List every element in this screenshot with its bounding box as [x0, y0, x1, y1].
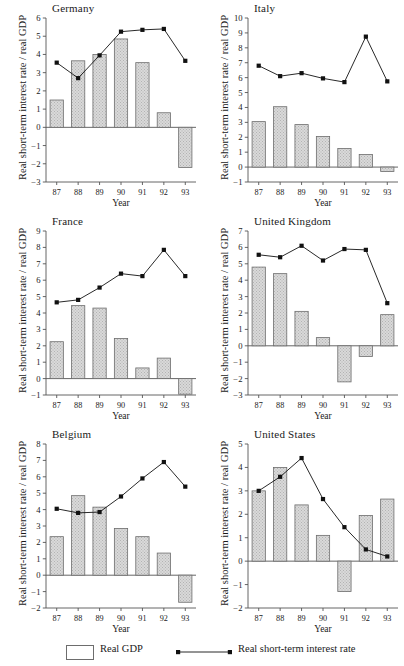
svg-text:4: 4	[238, 462, 243, 472]
svg-text:91: 91	[340, 614, 348, 623]
svg-text:8: 8	[36, 242, 40, 252]
svg-text:6: 6	[36, 13, 41, 23]
svg-text:87: 87	[255, 188, 263, 197]
svg-text:8: 8	[36, 439, 40, 449]
svg-text:89: 89	[95, 614, 103, 623]
svg-text:92: 92	[362, 401, 370, 410]
chart-panel: Germany Real short-term interest rate / …	[0, 0, 202, 210]
svg-text:92: 92	[160, 188, 168, 197]
svg-text:87: 87	[53, 614, 61, 623]
svg-text:92: 92	[160, 401, 168, 410]
svg-text:−1: −1	[31, 587, 40, 597]
legend-swatch-real-gdp	[66, 645, 94, 660]
x-axis-label: Year	[91, 411, 151, 421]
svg-text:5: 5	[238, 259, 242, 269]
svg-text:0: 0	[36, 374, 40, 384]
plot-area: 76543210−1−2−387888990919293	[202, 213, 404, 423]
x-axis-label: Year	[293, 411, 353, 421]
svg-text:7: 7	[238, 226, 243, 236]
svg-text:93: 93	[181, 614, 189, 623]
svg-text:3: 3	[238, 486, 242, 496]
legend-label-interest-rate: Real short-term interest rate	[238, 643, 356, 654]
svg-text:4: 4	[36, 49, 41, 59]
svg-text:5: 5	[238, 88, 242, 98]
chart-panel: United States Real short-term interest r…	[202, 426, 404, 636]
svg-text:2: 2	[36, 341, 40, 351]
svg-text:88: 88	[276, 188, 284, 197]
svg-text:8: 8	[238, 43, 242, 53]
svg-text:0: 0	[238, 162, 242, 172]
svg-text:−2: −2	[31, 159, 40, 169]
svg-text:5: 5	[36, 292, 40, 302]
figure-legend: Real GDP Real short-term interest rate	[0, 636, 404, 666]
svg-text:2: 2	[238, 132, 242, 142]
svg-text:−1: −1	[31, 390, 40, 400]
svg-text:87: 87	[255, 401, 263, 410]
svg-text:93: 93	[383, 188, 391, 197]
svg-text:89: 89	[297, 188, 305, 197]
x-axis-label: Year	[293, 198, 353, 208]
svg-text:9: 9	[36, 226, 40, 236]
svg-text:2: 2	[36, 86, 40, 96]
chart-panel: Italy Real short-term interest rate / re…	[202, 0, 404, 210]
svg-text:0: 0	[36, 570, 40, 580]
svg-text:90: 90	[319, 401, 327, 410]
svg-text:4: 4	[36, 505, 41, 515]
svg-text:90: 90	[319, 614, 327, 623]
svg-text:89: 89	[95, 188, 103, 197]
svg-text:1: 1	[238, 533, 242, 543]
x-axis-label: Year	[293, 624, 353, 634]
svg-text:87: 87	[255, 614, 263, 623]
svg-text:0: 0	[238, 556, 242, 566]
svg-text:4: 4	[36, 308, 41, 318]
svg-text:3: 3	[36, 68, 40, 78]
svg-text:87: 87	[53, 401, 61, 410]
svg-text:0: 0	[36, 122, 40, 132]
svg-text:92: 92	[362, 188, 370, 197]
svg-text:2: 2	[238, 308, 242, 318]
svg-text:6: 6	[238, 73, 243, 83]
chart-panel: Belgium Real short-term interest rate / …	[0, 426, 202, 636]
svg-text:4: 4	[238, 102, 243, 112]
svg-text:3: 3	[238, 117, 242, 127]
plot-area: 6543210−1−2−387888990919293	[0, 0, 202, 210]
svg-text:87: 87	[53, 188, 61, 197]
svg-text:7: 7	[36, 455, 41, 465]
svg-text:−2: −2	[233, 374, 242, 384]
svg-text:90: 90	[117, 614, 125, 623]
svg-text:93: 93	[181, 188, 189, 197]
svg-text:6: 6	[36, 472, 41, 482]
svg-text:91: 91	[138, 188, 146, 197]
svg-text:91: 91	[138, 614, 146, 623]
svg-text:91: 91	[138, 401, 146, 410]
svg-text:88: 88	[74, 614, 82, 623]
svg-text:−3: −3	[233, 390, 242, 400]
svg-text:93: 93	[383, 401, 391, 410]
svg-text:5: 5	[36, 488, 40, 498]
svg-text:90: 90	[319, 188, 327, 197]
svg-text:3: 3	[238, 292, 242, 302]
svg-text:7: 7	[36, 259, 41, 269]
svg-text:4: 4	[238, 275, 243, 285]
plot-area: 9876543210−187888990919293	[0, 213, 202, 423]
svg-text:5: 5	[238, 439, 242, 449]
svg-text:10: 10	[234, 13, 243, 23]
legend-label-real-gdp: Real GDP	[100, 643, 143, 654]
svg-text:88: 88	[74, 401, 82, 410]
plot-area: 109876543210−187888990919293	[202, 0, 404, 210]
svg-text:90: 90	[117, 401, 125, 410]
svg-text:5: 5	[36, 31, 40, 41]
svg-text:92: 92	[160, 614, 168, 623]
svg-text:89: 89	[297, 614, 305, 623]
plot-area: 543210−1−287888990919293	[202, 426, 404, 636]
svg-text:1: 1	[36, 554, 40, 564]
svg-text:93: 93	[383, 614, 391, 623]
svg-text:−3: −3	[31, 177, 40, 187]
plot-area: 876543210−1−287888990919293	[0, 426, 202, 636]
svg-text:3: 3	[36, 521, 40, 531]
svg-text:−1: −1	[233, 357, 242, 367]
svg-text:9: 9	[238, 28, 242, 38]
svg-text:0: 0	[238, 341, 242, 351]
svg-text:−1: −1	[31, 141, 40, 151]
legend-line-interest-rate	[176, 645, 232, 659]
